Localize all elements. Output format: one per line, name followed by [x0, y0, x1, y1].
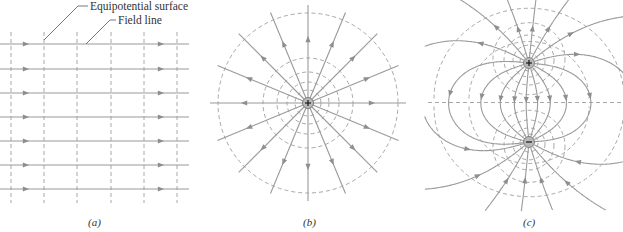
arrow-icon: [522, 177, 527, 184]
arrow-icon: [23, 114, 29, 119]
positive-charge-icon: [303, 98, 314, 109]
arrow-icon: [563, 95, 568, 102]
arrow-icon: [535, 96, 540, 103]
annotation-field-line: Field line: [86, 14, 162, 44]
arrow-icon: [23, 162, 29, 167]
arrow-icon: [158, 162, 164, 167]
arrow-icon: [158, 186, 164, 191]
equipotential-label: Equipotential surface: [90, 0, 188, 13]
arrow-icon: [363, 124, 370, 129]
arrow-icon: [158, 90, 164, 95]
arrow-icon: [530, 25, 535, 32]
arrow-icon: [363, 77, 370, 82]
arrow-icon: [282, 158, 287, 165]
field-line: [485, 147, 526, 210]
field-diagram: Equipotential surface Field line (a) (b)…: [0, 0, 623, 232]
field-line: [425, 146, 525, 189]
equipotential-arc: [469, 41, 589, 98]
arrow-icon: [23, 186, 29, 191]
arrow-icon: [158, 41, 164, 46]
arrow-icon: [464, 146, 471, 151]
arrow-icon: [158, 114, 164, 119]
arrow-icon: [480, 93, 485, 100]
field-line: [452, 0, 525, 58]
arrow-icon: [241, 100, 247, 105]
arrow-icon: [575, 160, 582, 165]
arrow-icon: [474, 174, 481, 179]
arrow-icon: [23, 66, 29, 71]
arrow-icon: [477, 41, 484, 46]
field-line: [534, 17, 623, 60]
arrow-icon: [158, 66, 164, 71]
equipotential-arc: [469, 107, 589, 164]
arrow-icon: [305, 164, 310, 170]
arrow-icon: [547, 95, 552, 102]
arrow-icon: [369, 100, 375, 105]
field-line: [308, 103, 377, 172]
arrow-icon: [246, 77, 253, 82]
arrow-icon: [329, 158, 334, 165]
arrow-icon: [23, 41, 29, 46]
panel-c-dipole: [425, 0, 623, 211]
arrow-icon: [329, 41, 334, 48]
field-line: [425, 41, 524, 61]
arrow-icon: [23, 90, 29, 95]
arrow-icon: [23, 138, 29, 143]
arrow-icon: [574, 52, 581, 57]
arrow-icon: [499, 95, 504, 102]
arrow-icon: [540, 177, 545, 184]
field-line: [535, 54, 623, 73]
field-line: [308, 34, 377, 103]
arrow-icon: [503, 178, 509, 185]
equipotential-arc: [434, 8, 623, 98]
field-line: [239, 34, 308, 103]
field-line: [526, 69, 528, 137]
field-line-label: Field line: [118, 14, 162, 26]
field-line: [239, 103, 308, 172]
panel-b-point-charge: [210, 5, 406, 201]
arrow-icon: [282, 41, 287, 48]
arrow-icon: [512, 96, 517, 103]
arrow-icon: [567, 32, 574, 37]
panel-label-c: (c): [523, 216, 536, 229]
arrow-icon: [448, 90, 453, 97]
negative-charge-icon: [524, 137, 535, 148]
panel-label-a: (a): [88, 216, 101, 229]
arrow-icon: [517, 26, 522, 33]
arrow-icon: [158, 138, 164, 143]
arrow-icon: [246, 124, 253, 129]
positive-charge-icon: [524, 58, 535, 69]
field-line: [514, 68, 526, 138]
field-line: [533, 147, 606, 211]
panel-a-uniform-field: [0, 32, 189, 203]
arrow-icon: [305, 36, 310, 42]
panel-label-b: (b): [303, 216, 316, 229]
arrow-icon: [545, 26, 551, 33]
field-line: [425, 117, 524, 151]
annotation-equipotential: Equipotential surface: [44, 0, 188, 40]
